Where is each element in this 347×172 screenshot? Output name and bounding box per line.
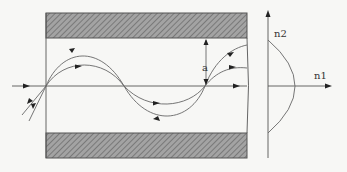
ray-small-amplitude (46, 65, 247, 106)
n2-axis-arrow-icon (266, 10, 271, 17)
dimension-a-label: a (202, 62, 208, 73)
graded-index-fiber-diagram: a n2 n1 (0, 0, 347, 172)
upper-cladding (46, 13, 247, 38)
n2-axis-label: n2 (274, 28, 287, 39)
incident-rays (22, 86, 46, 121)
dimension-a: a (202, 39, 209, 85)
exit-face-line (247, 38, 249, 133)
ray-large-amplitude (46, 45, 247, 121)
refractive-index-profile: n2 n1 (266, 10, 333, 158)
n1-axis-arrow-icon (325, 84, 332, 89)
parabolic-profile-curve (268, 40, 295, 133)
lower-cladding (46, 133, 247, 158)
n1-axis-label: n1 (314, 70, 327, 81)
